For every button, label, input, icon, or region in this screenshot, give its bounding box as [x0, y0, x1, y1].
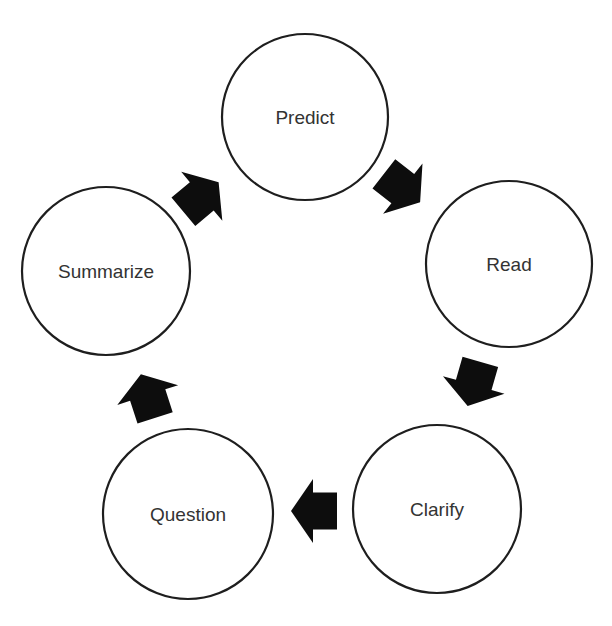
- node-read: Read: [426, 181, 592, 347]
- cycle-diagram: Predict Read Clarify Question Summarize: [0, 0, 612, 626]
- node-label-question: Question: [150, 504, 226, 525]
- arrow-question-to-summarize-icon: [110, 364, 185, 428]
- node-clarify: Clarify: [353, 425, 521, 593]
- node-label-read: Read: [486, 254, 531, 275]
- node-label-predict: Predict: [275, 107, 335, 128]
- node-question: Question: [103, 429, 273, 599]
- node-label-clarify: Clarify: [410, 499, 464, 520]
- node-predict: Predict: [222, 34, 388, 200]
- node-summarize: Summarize: [22, 187, 190, 355]
- arrow-read-to-clarify-icon: [437, 353, 511, 415]
- arrow-clarify-to-question-icon: [291, 479, 337, 543]
- node-label-summarize: Summarize: [58, 261, 154, 282]
